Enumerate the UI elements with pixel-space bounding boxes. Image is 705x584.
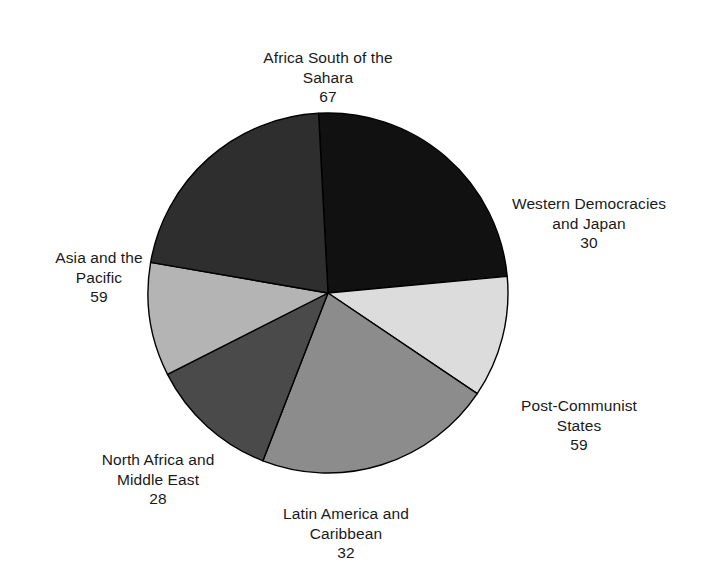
slice-label-latin-line1: Latin America and [283,505,409,522]
slice-label-asia-line1: Asia and the [55,249,142,266]
slice-value-africa: 67 [198,87,458,107]
slice-label-postcommunist-line2: States [557,417,602,434]
slice-label-western-line1: Western Democracies [512,195,666,212]
pie-chart: Africa South of the Sahara 67 Western De… [0,0,705,584]
slice-label-asia-line2: Pacific [76,269,122,286]
slice-value-western: 30 [478,233,700,253]
slice-label-africa: Africa South of the Sahara 67 [198,28,458,127]
slice-label-postcommunist-line1: Post-Communist [521,397,637,414]
slice-value-postcommunist: 59 [476,435,682,455]
slice-label-latin-america: Latin America and Caribbean 32 [243,484,449,583]
slice-label-northafrica-line1: North Africa and [102,451,215,468]
slice-label-northafrica-line2: Middle East [117,471,199,488]
slice-label-western-line2: and Japan [552,215,625,232]
slice-value-latin: 32 [243,543,449,563]
slice-label-latin-line2: Caribbean [310,525,382,542]
slice-label-north-africa: North Africa and Middle East 28 [56,430,260,529]
slice-label-africa-line2: Sahara [303,69,354,86]
pie-slice-group [148,113,508,473]
slice-label-western-democracies: Western Democracies and Japan 30 [478,174,700,273]
slice-label-post-communist: Post-Communist States 59 [476,376,682,475]
slice-label-asia-pacific: Asia and the Pacific 59 [16,228,182,327]
slice-label-africa-line1: Africa South of the [263,49,392,66]
slice-value-northafrica: 28 [56,489,260,509]
slice-value-asia: 59 [16,287,182,307]
